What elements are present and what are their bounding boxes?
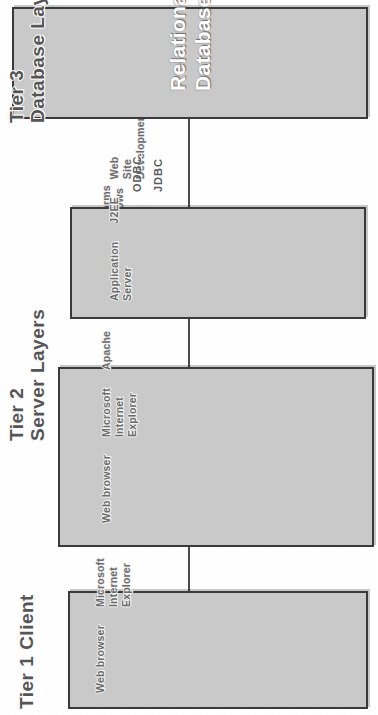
tier3-heading-line2: Database Layer: [27, 0, 48, 123]
tier2app-line: Application: [108, 242, 121, 301]
tier3-group-relational-database: Relational Database: [165, 0, 215, 91]
tier2-heading-line1: Tier 2: [6, 309, 27, 441]
tier1-client-box: Web browser Microsoft Internet Explorer …: [68, 591, 368, 709]
tier2-application-server-box: Application Server J2EE Web Site Develop…: [70, 207, 366, 319]
tier3-line: Relational: [165, 0, 190, 91]
tier1-line: Internet: [107, 567, 120, 607]
tier1-line: Web browser: [94, 625, 107, 693]
tier3-content: Relational Database: [14, 9, 366, 117]
tier3-line: Database: [190, 0, 215, 91]
tier3-database-box: Relational Database: [12, 7, 368, 119]
tier1-heading-line1: Tier 1 Client: [16, 594, 37, 709]
three-tier-architecture-diagram: Web browser Microsoft Internet Explorer …: [0, 0, 378, 715]
connector-appserver-to-database: [188, 119, 190, 207]
tier1-line: Explorer: [120, 563, 133, 607]
tier2app-line: Server: [121, 267, 134, 301]
tier2app-line: Web: [108, 157, 121, 180]
tier3-heading-line1: Tier 3: [6, 0, 27, 123]
tier1-heading: Tier 1 Client: [16, 594, 37, 709]
tier2-web-content: Web browser Microsoft Internet Explorer …: [60, 369, 372, 545]
tier1-group-browser-role: Web browser: [94, 625, 107, 693]
rotated-canvas: Web browser Microsoft Internet Explorer …: [0, 0, 378, 715]
tier1-line: Microsoft: [94, 558, 107, 607]
protocol-label-jdbc: JDBC: [152, 158, 164, 192]
tier2-heading-line2: Server Layers: [27, 309, 48, 441]
tier2web-line: Microsoft: [100, 388, 113, 437]
tier2-heading: Tier 2 Server Layers: [6, 309, 48, 441]
tier2app-line: J2EE: [108, 197, 121, 224]
tier2web-group-ms-server: Microsoft Internet Explorer: [100, 388, 139, 437]
tier2web-group-apache: Apache: [100, 331, 113, 370]
connector-tier1-to-webserver: [188, 547, 190, 593]
tier1-content: Web browser Microsoft Internet Explorer …: [70, 593, 366, 707]
tier2-app-content: Application Server J2EE Web Site Develop…: [72, 209, 364, 317]
tier2web-group-server-role: Web browser: [100, 455, 113, 523]
tier2web-line: Explorer: [126, 393, 139, 437]
tier1-group-ie: Microsoft Internet Explorer: [94, 558, 133, 607]
tier2web-line: Web browser: [100, 455, 113, 523]
tier3-heading: Tier 3 Database Layer: [6, 0, 48, 123]
tier2web-line: Apache: [100, 331, 113, 370]
tier2app-group-j2ee: J2EE: [108, 197, 121, 224]
tier2web-line: Internet: [113, 397, 126, 437]
tier2app-group-role: Application Server: [108, 242, 134, 301]
protocol-label-odbc: ODBC: [131, 156, 143, 192]
connector-webserver-to-appserver: [188, 319, 190, 367]
tier2-web-server-box: Web browser Microsoft Internet Explorer …: [58, 367, 374, 547]
